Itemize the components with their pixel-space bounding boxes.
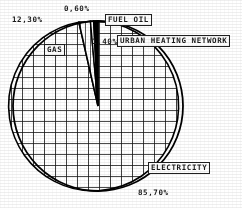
- category-label-gas: GAS: [44, 44, 65, 56]
- value-label-electricity: 85,70%: [138, 188, 169, 197]
- category-label-fuel-oil: FUEL OIL: [105, 14, 152, 26]
- category-label-electricity: ELECTRICITY: [148, 162, 210, 174]
- pie-chart-canvas: [0, 0, 242, 208]
- value-label-fuel-oil: 0,60%: [64, 4, 90, 13]
- value-label-urban-heating-network: 1,40%: [92, 37, 118, 46]
- pie-chart-figure: 0,60% 12,30% 1,40% 85,70% FUEL OIL URBAN…: [0, 0, 242, 208]
- value-label-gas: 12,30%: [12, 15, 43, 24]
- category-label-urban-heating-network: URBAN HEATING NETWORK: [117, 35, 230, 47]
